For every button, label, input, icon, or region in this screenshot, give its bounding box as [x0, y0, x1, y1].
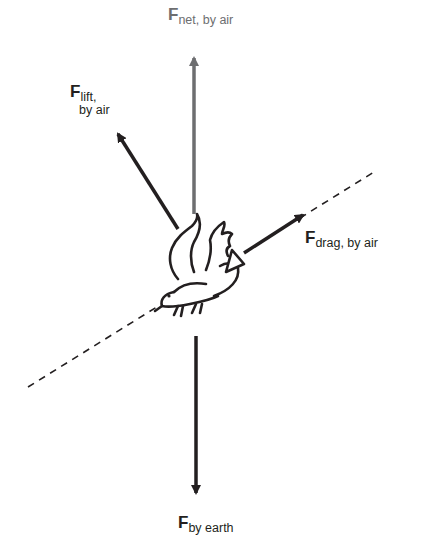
net-force-label: Fnet, by air — [168, 6, 233, 23]
free-body-diagram — [0, 0, 428, 550]
bird-illustration — [155, 214, 244, 316]
net-force-subscript: net, by air — [178, 13, 233, 27]
net-force-symbol: F — [168, 5, 178, 24]
lift-force-subscript-line2: by air — [79, 103, 110, 117]
flight-path-line — [28, 172, 374, 387]
drag-force-symbol: F — [305, 228, 315, 247]
lift-force-symbol: F — [70, 82, 80, 101]
lift-force-label: Flift, — [70, 83, 96, 100]
gravity-force-symbol: F — [178, 513, 188, 532]
drag-force-subscript: drag, by air — [315, 236, 378, 250]
gravity-force-subscript: by earth — [188, 521, 233, 535]
lift-force-subscript-line1: lift, — [80, 90, 96, 104]
drag-force-label: Fdrag, by air — [305, 229, 378, 246]
drag-force-arrow — [244, 215, 303, 253]
lift-force-arrow — [118, 134, 178, 229]
gravity-force-label: Fby earth — [178, 514, 234, 531]
